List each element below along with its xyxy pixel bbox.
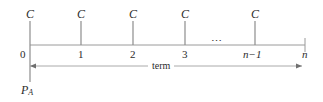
cash-flow-timeline-diagram: C C C C C 0 1 2 3 n−1 n ⋯ term PA: [0, 0, 323, 102]
tick-label-2: 2: [130, 49, 136, 60]
present-worth-label: PA: [21, 84, 33, 97]
term-span-arrowhead-right: [296, 63, 302, 68]
cash-flow-label-t1: C: [77, 8, 85, 20]
tick-label-n: n: [302, 49, 308, 60]
tick-label-1: 1: [78, 49, 84, 60]
cash-flow-label-t0: C: [26, 8, 34, 20]
tick-label-n-minus-1: n−1: [243, 49, 261, 60]
present-worth-subscript: A: [28, 88, 33, 97]
diagram-canvas: [0, 0, 323, 102]
ellipsis: ⋯: [211, 36, 223, 47]
term-span-label: term: [148, 61, 174, 71]
tick-label-3: 3: [182, 49, 188, 60]
term-span-arrowhead-left: [30, 63, 36, 68]
cash-flow-label-t3: C: [181, 8, 189, 20]
tick-label-0: 0: [20, 49, 26, 60]
cash-flow-label-t2: C: [129, 8, 137, 20]
cash-flow-label-tn1: C: [251, 8, 259, 20]
